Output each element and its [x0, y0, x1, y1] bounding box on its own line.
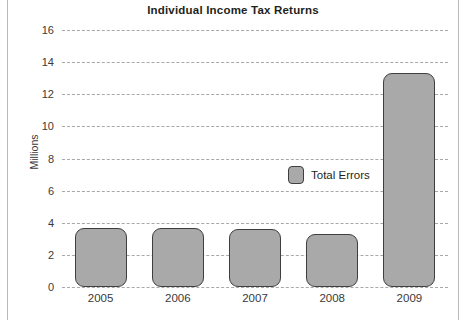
- x-axis-tick: 2008: [297, 292, 367, 304]
- bar-2009: [383, 73, 435, 287]
- y-axis-tick: 0: [14, 281, 54, 293]
- y-axis-tick: 2: [14, 249, 54, 261]
- x-axis-tick-labels: 20052006200720082009: [62, 292, 448, 312]
- y-axis-tick: 12: [14, 88, 54, 100]
- chart-figure: Individual Income Tax Returns 0246810121…: [0, 0, 466, 320]
- x-axis-tick: 2005: [66, 292, 136, 304]
- y-axis-tick: 14: [14, 56, 54, 68]
- legend-swatch-total-errors: [288, 166, 304, 184]
- chart-legend: Total Errors: [288, 166, 370, 184]
- legend-label-total-errors: Total Errors: [311, 169, 370, 181]
- gridline: [62, 30, 448, 31]
- y-axis-tick: 4: [14, 217, 54, 229]
- x-axis-tick: 2006: [143, 292, 213, 304]
- plot-area: [62, 30, 448, 287]
- gridline: [62, 287, 448, 288]
- figure-right-border: [458, 0, 459, 320]
- x-axis-tick: 2007: [220, 292, 290, 304]
- y-axis-label: Millions: [28, 112, 40, 192]
- x-axis-tick: 2009: [374, 292, 444, 304]
- bar-2007: [229, 229, 281, 287]
- gridline: [62, 62, 448, 63]
- bar-2008: [306, 234, 358, 287]
- chart-title: Individual Income Tax Returns: [0, 4, 466, 16]
- bar-2005: [75, 228, 127, 287]
- bar-2006: [152, 228, 204, 287]
- y-axis-tick: 16: [14, 24, 54, 36]
